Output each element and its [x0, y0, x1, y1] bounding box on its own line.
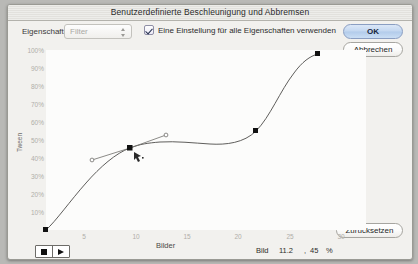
ok-button[interactable]: OK: [343, 24, 403, 39]
handle-knob-in[interactable]: [90, 158, 94, 162]
control-point-selected[interactable]: [127, 145, 133, 151]
ease-curve-graph[interactable]: 100% 90% 80% 70% 60% 50% 40% 30% 20% 10%…: [8, 43, 412, 259]
control-point-start[interactable]: [43, 227, 48, 232]
preview-transport-controls[interactable]: [35, 245, 70, 258]
window-title: Benutzerdefinierte Beschleunigung und Ab…: [8, 7, 412, 17]
readout-unit: %: [326, 246, 333, 255]
checkbox-checked-icon[interactable]: [144, 25, 154, 35]
handle-line-out[interactable]: [130, 135, 166, 148]
control-point-end[interactable]: [315, 51, 320, 56]
chevron-updown-icon: [121, 27, 127, 38]
control-point-mid[interactable]: [253, 128, 258, 133]
use-one-setting-label: Eine Einstellung für alle Eigenschaften …: [158, 26, 336, 35]
readout-frame-label: Bild: [256, 246, 269, 255]
play-icon[interactable]: [52, 246, 69, 257]
ease-curve-svg[interactable]: [8, 43, 412, 259]
window-titlebar[interactable]: Benutzerdefinierte Beschleunigung und Ab…: [8, 5, 412, 21]
custom-ease-dialog: Benutzerdefinierte Beschleunigung und Ab…: [7, 4, 413, 260]
readout-frame-value[interactable]: 11.2: [279, 246, 293, 255]
use-one-setting-checkbox[interactable]: Eine Einstellung für alle Eigenschaften …: [144, 25, 336, 35]
property-select[interactable]: Filter: [64, 24, 132, 39]
property-label: Eigenschaft:: [22, 27, 66, 36]
property-select-value: Filter: [70, 27, 88, 36]
handle-line-in[interactable]: [92, 148, 130, 160]
ease-curve-path[interactable]: [46, 54, 318, 230]
handle-knob-out[interactable]: [164, 133, 168, 137]
readout-amount-value[interactable]: 45: [310, 246, 318, 255]
drag-cursor-icon: [134, 152, 141, 162]
drag-dot-icon: [142, 157, 144, 159]
readout-separator: ,: [304, 246, 306, 255]
stop-icon[interactable]: [36, 246, 52, 257]
